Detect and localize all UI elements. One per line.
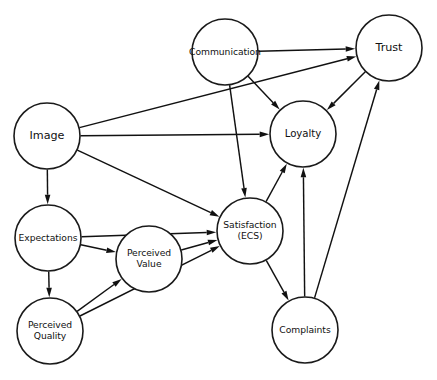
edge-image-expectations: [45, 170, 51, 205]
arrowhead-icon: [346, 56, 356, 61]
arrowhead-icon: [241, 188, 247, 198]
edge-trust-loyalty: [327, 72, 365, 110]
node-label-expectations: Expectations: [19, 232, 78, 243]
arrowhead-icon: [301, 168, 307, 178]
node-image[interactable]: Image: [14, 103, 80, 169]
edge-expectations-quality: [46, 271, 52, 297]
node-label-communication: Communication: [189, 46, 261, 57]
node-perceived_value[interactable]: PerceivedValue: [116, 226, 182, 292]
arrowhead-icon: [282, 291, 289, 301]
arrowhead-icon: [210, 210, 220, 217]
node-perceived_quality[interactable]: PerceivedQuality: [17, 298, 83, 364]
arrowhead-icon: [346, 46, 356, 52]
node-trust[interactable]: Trust: [356, 15, 422, 81]
node-label-satisfaction: Satisfaction: [223, 219, 277, 230]
edge-communication-satisfaction: [230, 85, 247, 197]
edge-satisfaction-complaints: [266, 260, 288, 300]
node-label-complaints: Complaints: [279, 324, 331, 335]
edge-communication-trust: [258, 46, 355, 52]
node-label-satisfaction: (ECS): [238, 230, 263, 241]
edge-image-loyalty: [81, 132, 270, 138]
arrowhead-icon: [260, 132, 270, 138]
arrowhead-icon: [207, 230, 217, 236]
arrowhead-icon: [280, 164, 287, 174]
node-satisfaction[interactable]: Satisfaction(ECS): [217, 198, 283, 264]
node-label-perceived_quality: Perceived: [28, 319, 72, 330]
edge-expectations-value: [81, 245, 116, 253]
arrowhead-icon: [45, 195, 51, 205]
edge-satisfaction-loyalty: [266, 164, 287, 202]
node-communication[interactable]: Communication: [189, 19, 261, 85]
arrowhead-icon: [374, 80, 379, 90]
node-label-perceived_quality: Quality: [34, 330, 67, 341]
path-diagram-canvas: CommunicationTrustImageLoyaltyExpectatio…: [0, 0, 437, 380]
ecsi-model-diagram: CommunicationTrustImageLoyaltyExpectatio…: [0, 0, 437, 380]
node-expectations[interactable]: Expectations: [15, 205, 81, 271]
node-label-trust: Trust: [375, 41, 404, 54]
arrowhead-icon: [210, 246, 220, 253]
node-complaints[interactable]: Complaints: [272, 297, 338, 363]
node-label-loyalty: Loyalty: [285, 128, 322, 139]
node-label-perceived_value: Perceived: [127, 247, 171, 258]
arrowhead-icon: [46, 288, 52, 298]
edge-complaints-loyalty: [301, 168, 307, 297]
edge-image-satisfaction: [77, 150, 219, 216]
node-loyalty[interactable]: Loyalty: [270, 101, 336, 167]
arrowhead-icon: [106, 247, 116, 252]
node-label-image: Image: [30, 129, 65, 142]
edge-communication-loyalty: [248, 76, 280, 109]
arrowhead-icon: [112, 279, 121, 287]
node-label-perceived_value: Value: [137, 258, 162, 269]
edges-layer: [45, 46, 380, 316]
nodes-layer: CommunicationTrustImageLoyaltyExpectatio…: [14, 15, 422, 364]
arrowhead-icon: [208, 240, 218, 245]
